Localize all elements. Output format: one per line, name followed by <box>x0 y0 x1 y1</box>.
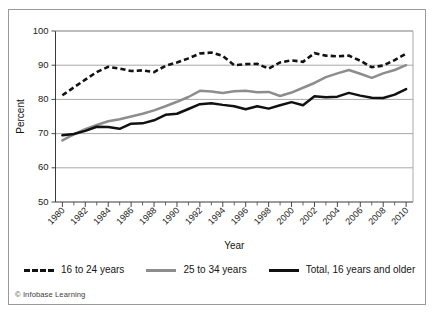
chart-legend: 16 to 24 years 25 to 34 years Total, 16 … <box>18 262 418 278</box>
series-line <box>62 89 406 135</box>
legend-item-25-to-34: 25 to 34 years <box>146 265 246 275</box>
legend-item-total: Total, 16 years and older <box>269 265 416 275</box>
legend-swatch-black-line-icon <box>269 269 299 272</box>
x-tick-label: 1990 <box>160 205 181 226</box>
y-tick-label: 70 <box>38 127 49 138</box>
legend-item-16-to-24: 16 to 24 years <box>24 265 124 275</box>
legend-swatch-gray-line-icon <box>146 269 176 272</box>
x-axis-ticks <box>62 202 406 207</box>
x-tick-label: 1980 <box>46 205 67 226</box>
y-tick-label: 50 <box>38 196 49 207</box>
x-tick-label: 1994 <box>206 205 227 226</box>
x-tick-label: 2006 <box>343 205 364 226</box>
x-tick-label: 1998 <box>252 205 273 226</box>
y-tick-label: 100 <box>33 25 49 36</box>
x-tick-label: 2000 <box>275 205 296 226</box>
x-tick-label: 2002 <box>298 205 319 226</box>
x-tick-label: 1992 <box>183 205 204 226</box>
x-tick-label: 2004 <box>321 205 342 226</box>
y-tick-label: 80 <box>38 93 49 104</box>
data-series <box>62 53 406 141</box>
x-tick-label: 1982 <box>68 205 89 226</box>
y-axis-ticks <box>52 31 56 202</box>
legend-label-16-to-24: 16 to 24 years <box>61 265 124 275</box>
legend-label-total: Total, 16 years and older <box>306 265 416 275</box>
y-axis-tick-labels: 5060708090100 <box>33 25 49 207</box>
y-tick-label: 90 <box>38 59 49 70</box>
grid-lines <box>56 31 414 168</box>
x-tick-label: 1986 <box>114 205 135 226</box>
x-tick-label: 2010 <box>389 205 410 226</box>
y-axis-title: Percent <box>15 99 26 134</box>
y-tick-label: 60 <box>38 161 49 172</box>
chart-figure: 5060708090100 19801982198419861988199019… <box>0 0 435 314</box>
axis-lines <box>56 31 414 202</box>
copyright-credit: © Infobase Learning <box>15 290 85 299</box>
legend-swatch-dashed-line-icon <box>24 269 54 272</box>
x-axis-title: Year <box>224 240 245 251</box>
x-tick-label: 1996 <box>229 205 250 226</box>
x-axis-tick-labels: 1980198219841986198819901992199419961998… <box>46 205 411 226</box>
series-line <box>62 53 406 96</box>
x-tick-label: 1988 <box>137 205 158 226</box>
legend-label-25-to-34: 25 to 34 years <box>183 265 246 275</box>
x-tick-label: 1984 <box>91 205 112 226</box>
x-tick-label: 2008 <box>366 205 387 226</box>
